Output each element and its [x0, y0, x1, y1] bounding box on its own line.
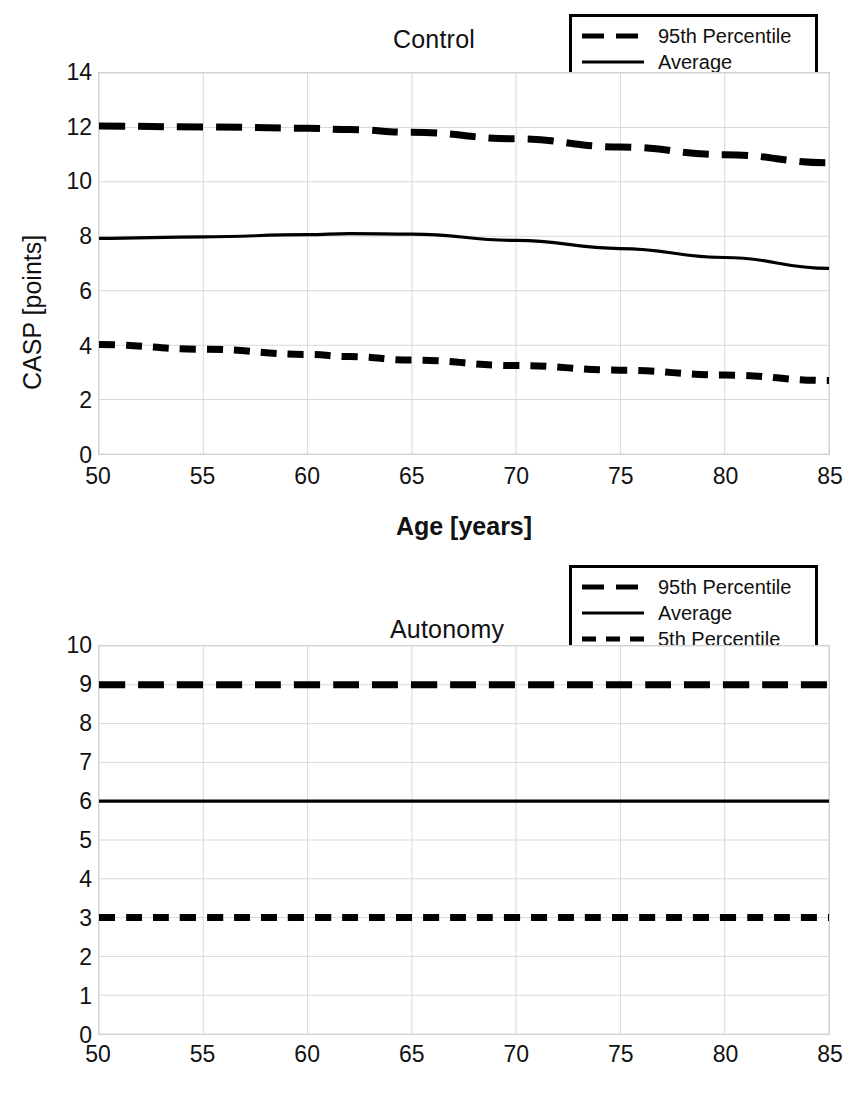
- plot-area-control: [98, 72, 830, 455]
- chart-autonomy: Autonomy 95th Percentile Average 5th Per…: [0, 555, 859, 1119]
- y-tick-10: 10: [66, 634, 92, 657]
- x-tick-55: 55: [190, 1043, 216, 1066]
- x-tick-65: 65: [399, 465, 425, 488]
- y-tick-3: 3: [79, 907, 92, 930]
- x-tick-50: 50: [85, 465, 111, 488]
- legend-line-solid-icon: [582, 603, 644, 623]
- x-axis-label-control: Age [years]: [396, 512, 532, 541]
- legend-label-95th: 95th Percentile: [658, 26, 791, 46]
- y-tick-6: 6: [79, 279, 92, 302]
- y-tick-12: 12: [66, 115, 92, 138]
- x-tick-65: 65: [399, 1043, 425, 1066]
- legend-label-average: Average: [658, 52, 732, 72]
- plot-area-autonomy: [98, 645, 830, 1035]
- chart-title-control: Control: [393, 25, 475, 54]
- x-tick-75: 75: [608, 1043, 634, 1066]
- x-tick-75: 75: [608, 465, 634, 488]
- x-tick-85: 85: [817, 465, 843, 488]
- y-tick-8: 8: [79, 712, 92, 735]
- y-axis-label-control: CASP [points]: [18, 235, 47, 390]
- x-tick-60: 60: [294, 465, 320, 488]
- x-tick-60: 60: [294, 1043, 320, 1066]
- legend-item-average[interactable]: Average: [582, 600, 805, 626]
- x-tick-50: 50: [85, 1043, 111, 1066]
- chart-title-autonomy: Autonomy: [390, 615, 504, 644]
- legend-label-average: Average: [658, 603, 732, 623]
- y-tick-14: 14: [66, 61, 92, 84]
- y-tick-2: 2: [79, 389, 92, 412]
- y-tick-4: 4: [79, 868, 92, 891]
- plot-lines-autonomy: [99, 646, 829, 1034]
- y-tick-4: 4: [79, 334, 92, 357]
- y-tick-5: 5: [79, 829, 92, 852]
- y-tick-6: 6: [79, 790, 92, 813]
- y-tick-10: 10: [66, 170, 92, 193]
- legend-line-solid-icon: [582, 52, 644, 72]
- y-tick-2: 2: [79, 946, 92, 969]
- y-tick-7: 7: [79, 751, 92, 774]
- x-tick-80: 80: [713, 1043, 739, 1066]
- legend-line-dash-long-icon: [582, 26, 644, 46]
- legend-item-95th[interactable]: 95th Percentile: [582, 23, 805, 49]
- x-tick-70: 70: [503, 465, 529, 488]
- chart-control: Control 95th Percentile Average 5th Perc…: [0, 0, 859, 555]
- x-tick-80: 80: [713, 465, 739, 488]
- y-tick-9: 9: [79, 673, 92, 696]
- x-tick-70: 70: [503, 1043, 529, 1066]
- legend-label-95th: 95th Percentile: [658, 577, 791, 597]
- legend-item-95th[interactable]: 95th Percentile: [582, 574, 805, 600]
- legend-line-dash-long-icon: [582, 577, 644, 597]
- y-tick-8: 8: [79, 225, 92, 248]
- y-tick-1: 1: [79, 985, 92, 1008]
- plot-lines-control: [99, 73, 829, 454]
- x-tick-55: 55: [190, 465, 216, 488]
- x-tick-85: 85: [817, 1043, 843, 1066]
